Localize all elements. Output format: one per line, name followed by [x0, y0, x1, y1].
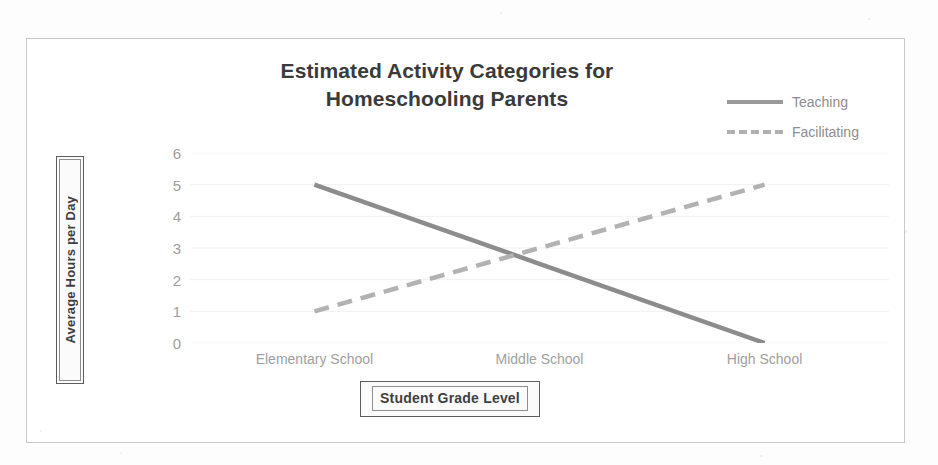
- series-line-teaching: [314, 185, 764, 343]
- scanned-page: Estimated Activity Categories for Homesc…: [0, 0, 938, 465]
- legend-label-teaching: Teaching: [792, 94, 848, 110]
- scan-speckle: [760, 455, 763, 457]
- x-axis-ticks: Elementary SchoolMiddle SchoolHigh Schoo…: [190, 351, 889, 375]
- y-axis-title: Average Hours per Day: [63, 196, 78, 344]
- y-tick-label: 6: [155, 145, 181, 162]
- scan-speckle: [500, 12, 502, 14]
- gridlines: [190, 153, 889, 343]
- y-tick-label: 2: [155, 271, 181, 288]
- chart-title: Estimated Activity Categories for Homesc…: [197, 57, 697, 112]
- y-tick-label: 0: [155, 335, 181, 352]
- legend-label-facilitating: Facilitating: [792, 124, 859, 140]
- x-axis-title-inner-border: Student Grade Level: [372, 386, 528, 411]
- legend-item-teaching[interactable]: Teaching: [727, 87, 902, 117]
- series-layer: [314, 185, 764, 343]
- x-tick-label: Middle School: [496, 351, 584, 367]
- chart-frame: Estimated Activity Categories for Homesc…: [26, 38, 905, 443]
- chart-svg: [190, 153, 889, 343]
- x-axis-title: Student Grade Level: [380, 390, 520, 406]
- y-axis-title-inner-border: Average Hours per Day: [59, 159, 81, 381]
- y-tick-label: 5: [155, 176, 181, 193]
- legend-line-dashed-icon: [727, 130, 783, 134]
- scan-speckle: [905, 230, 907, 233]
- scan-speckle: [868, 18, 871, 20]
- y-tick-label: 4: [155, 208, 181, 225]
- plot-area: [190, 153, 889, 343]
- scan-speckle: [120, 452, 122, 454]
- x-tick-label: Elementary School: [256, 351, 374, 367]
- legend-line-solid-icon: [727, 100, 783, 104]
- chart-title-line-1: Estimated Activity Categories for: [281, 59, 614, 82]
- x-axis-title-box: Student Grade Level: [360, 381, 540, 417]
- y-tick-label: 1: [155, 303, 181, 320]
- x-tick-label: High School: [727, 351, 803, 367]
- chart-legend: Teaching Facilitating: [727, 87, 902, 147]
- legend-item-facilitating[interactable]: Facilitating: [727, 117, 902, 147]
- y-tick-label: 3: [155, 240, 181, 257]
- y-axis-ticks: 6543210: [149, 153, 181, 343]
- scan-speckle: [40, 430, 42, 432]
- chart-title-line-2: Homeschooling Parents: [197, 85, 697, 113]
- y-axis-title-box: Average Hours per Day: [56, 156, 84, 384]
